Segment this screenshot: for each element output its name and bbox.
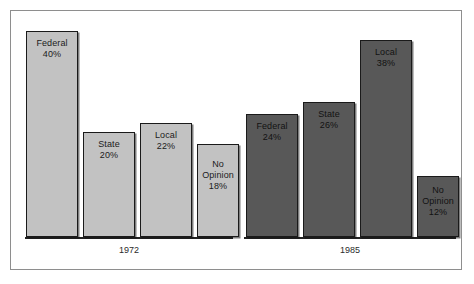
bar-category-label: Federal [27,38,77,49]
bar-category-label: Federal [247,121,297,132]
bar-category-label: Local [141,130,191,141]
bar-1972-no-opinion[interactable]: No Opinion 18% [197,144,239,237]
bar-category-label-line2: Opinion [198,170,238,181]
group-label-1985: 1985 [244,245,456,255]
bar-label-1985-federal: Federal 24% [247,121,297,143]
bar-1985-no-opinion[interactable]: No Opinion 12% [417,176,459,237]
bar-label-1985-state: State 26% [304,109,354,131]
chart-root: Federal 40% State 20% Local 22% No [0,0,474,284]
bar-label-1972-local: Local 22% [141,130,191,152]
bar-value-label: 38% [361,58,411,69]
figure-frame: Federal 40% State 20% Local 22% No [10,10,462,270]
bar-value-label: 20% [84,150,134,161]
bar-label-1985-local: Local 38% [361,47,411,69]
bar-category-label: State [304,109,354,120]
bar-label-1972-federal: Federal 40% [27,38,77,60]
bar-category-label-line1: No [418,185,458,196]
bar-1972-local[interactable]: Local 22% [140,123,192,237]
bar-category-label: State [84,139,134,150]
bar-value-label: 18% [198,181,238,192]
bar-1972-state[interactable]: State 20% [83,132,135,237]
plot-area: Federal 40% State 20% Local 22% No [11,11,463,271]
bar-1985-state[interactable]: State 26% [303,102,355,237]
bar-value-label: 24% [247,132,297,143]
group-label-1972: 1972 [25,245,233,255]
bar-category-label: Local [361,47,411,58]
bar-1985-federal[interactable]: Federal 24% [246,114,298,237]
bar-1985-local[interactable]: Local 38% [360,40,412,237]
bar-value-label: 22% [141,141,191,152]
bar-label-1985-no-opinion: No Opinion 12% [418,185,458,218]
baseline-axis-1972 [25,237,233,239]
bar-1972-federal[interactable]: Federal 40% [26,31,78,237]
bar-value-label: 12% [418,207,458,218]
bar-category-label-line2: Opinion [418,196,458,207]
bar-value-label: 40% [27,49,77,60]
bar-value-label: 26% [304,120,354,131]
bar-label-1972-state: State 20% [84,139,134,161]
bar-category-label-line1: No [198,159,238,170]
bar-label-1972-no-opinion: No Opinion 18% [198,159,238,192]
baseline-axis-1985 [244,237,456,239]
